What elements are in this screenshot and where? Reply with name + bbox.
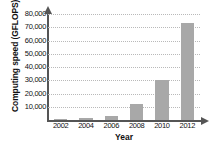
y-axis-tick-label: 20,000 [16,90,46,98]
x-axis-title: Year [48,133,200,142]
bar [181,23,194,120]
gridline [48,14,200,15]
bar-chart: Computing speed (GFLOPS) 10,00020,00030,… [0,0,212,147]
y-axis-tick-label: 40,000 [16,63,46,71]
x-axis-tick-label: 2012 [175,122,200,130]
x-axis-tick-label: 2002 [48,122,73,130]
y-axis-tick-label: 60,000 [16,37,46,45]
bar [155,80,168,120]
y-axis-tick-labels: 10,00020,00030,00040,00050,00060,00070,0… [16,0,46,147]
x-axis-arrow-icon [201,117,209,125]
y-axis-tick-label: 10,000 [16,103,46,111]
plot-area [48,14,200,120]
y-axis-tick-label: 50,000 [16,50,46,58]
y-axis-arrow-icon [44,6,52,14]
gridline [48,67,200,68]
y-axis-tick-label: 80,000 [16,10,46,18]
gridline [48,41,200,42]
y-axis-tick-label: 70,000 [16,23,46,31]
gridline [48,94,200,95]
bar [130,104,143,120]
x-axis-tick-label: 2008 [124,122,149,130]
x-axis-tick-label: 2004 [73,122,98,130]
gridline [48,80,200,81]
gridline [48,27,200,28]
gridline [48,107,200,108]
x-axis-tick-label: 2006 [99,122,124,130]
x-axis-tick-label: 2010 [149,122,174,130]
y-axis-tick-label: 30,000 [16,76,46,84]
gridline [48,54,200,55]
